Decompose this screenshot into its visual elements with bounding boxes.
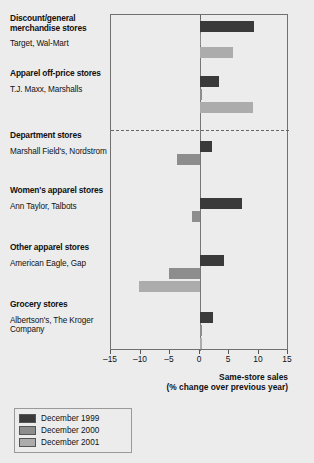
category-heading: Grocery stores <box>10 300 110 310</box>
xlabel--10: –10 <box>128 354 152 364</box>
category-examples: Ann Taylor, Talbots <box>10 202 110 212</box>
bar-womens-2000 <box>192 211 200 222</box>
plot-area <box>110 14 288 350</box>
bar-offprice-2001 <box>200 102 253 113</box>
category-heading: Other apparel stores <box>10 243 110 253</box>
bar-womens-1999 <box>200 198 242 209</box>
category-examples: American Eagle, Gap <box>10 259 110 269</box>
category-label-grocery: Grocery stores Albertson's, The Kroger C… <box>10 300 110 335</box>
xlabel--5: –5 <box>157 354 181 364</box>
xlabel-5: 5 <box>216 354 240 364</box>
legend-swatch-1999 <box>19 414 36 423</box>
legend-swatch-2001 <box>19 438 36 447</box>
category-label-discount: Discount/general merchandise stores Targ… <box>10 14 110 49</box>
zero-axis-line <box>200 15 201 351</box>
category-label-department: Department stores Marshall Field's, Nord… <box>10 131 110 156</box>
xlabel-15: 15 <box>275 354 299 364</box>
legend-item-2000: December 2000 <box>19 425 127 436</box>
category-label-other-apparel: Other apparel stores American Eagle, Gap <box>10 243 110 268</box>
axis-title-line1: Same-store sales <box>118 372 288 382</box>
bar-discount-1999 <box>200 21 254 32</box>
legend-label-2001: December 2001 <box>41 438 99 447</box>
axis-title: Same-store sales (% change over previous… <box>118 372 288 392</box>
legend-item-1999: December 1999 <box>19 413 127 424</box>
category-examples: Target, Wal-Mart <box>10 39 110 49</box>
category-examples: Albertson's, The Kroger Company <box>10 316 110 335</box>
category-heading: Apparel off-price stores <box>10 69 110 79</box>
bar-other-2001 <box>139 281 200 292</box>
legend-label-2000: December 2000 <box>41 426 99 435</box>
category-examples: Marshall Field's, Nordstrom <box>10 147 110 157</box>
bar-other-1999 <box>200 255 224 266</box>
xlabel--15: –15 <box>98 354 122 364</box>
category-heading: Women's apparel stores <box>10 186 110 196</box>
legend-label-1999: December 1999 <box>41 414 99 423</box>
x-axis: –15 –10 –5 0 5 10 15 <box>110 350 288 364</box>
bar-discount-2001 <box>200 47 233 58</box>
legend-item-2001: December 2001 <box>19 437 127 448</box>
axis-title-line2: (% change over previous year) <box>118 382 288 392</box>
bar-grocery-1999 <box>200 312 213 323</box>
bar-offprice-2000 <box>200 89 202 100</box>
chart-page: Discount/general merchandise stores Targ… <box>0 0 314 463</box>
bar-offprice-1999 <box>200 76 219 87</box>
category-label-apparel-offprice: Apparel off-price stores T.J. Maxx, Mars… <box>10 69 110 94</box>
bar-department-1999 <box>200 141 212 152</box>
bar-department-2000 <box>177 154 200 165</box>
chart-legend: December 1999 December 2000 December 200… <box>14 408 132 453</box>
legend-swatch-2000 <box>19 426 36 435</box>
category-heading: Department stores <box>10 131 110 141</box>
bar-discount-2000 <box>200 34 201 45</box>
xlabel-10: 10 <box>246 354 270 364</box>
category-label-womens-apparel: Women's apparel stores Ann Taylor, Talbo… <box>10 186 110 211</box>
zero-tick-top <box>200 15 201 19</box>
group-divider-line <box>111 130 289 131</box>
xlabel-0: 0 <box>187 354 211 364</box>
category-heading: Discount/general merchandise stores <box>10 14 110 33</box>
bar-grocery-2001 <box>200 338 202 349</box>
category-examples: T.J. Maxx, Marshalls <box>10 85 110 95</box>
bar-grocery-2000 <box>200 325 202 336</box>
bar-other-2000 <box>169 268 200 279</box>
